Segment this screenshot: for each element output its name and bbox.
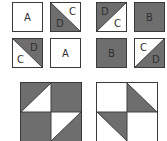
tile-a-bottom: A [50,38,81,68]
tile-cd-diagonal-1: C D [50,2,81,32]
tile-label-c: C [69,7,76,17]
quilt-block-right-shape [97,83,157,141]
quilt-block-right [96,82,158,141]
quilt-block-left-shape [21,83,81,141]
tile-cd-diagonal-2: C D [134,38,165,68]
tile-label-d: D [152,55,160,65]
tile-dc-diagonal-2: D C [12,38,43,68]
tile-label-b: B [108,49,115,59]
tile-a-top: A [12,2,43,32]
tile-b-top: B [134,2,165,32]
tile-label-b: B [146,13,153,23]
quilt-block-left [20,82,82,141]
tile-label-c: C [17,55,24,65]
tile-b-bottom: B [96,38,127,68]
tile-label-a: A [24,13,31,23]
tile-dc-diagonal-1: D C [96,2,127,32]
tile-label-d: D [56,19,64,29]
tile-label-c: C [114,19,121,29]
tile-label-d: D [101,7,109,17]
tile-label-d: D [30,43,38,53]
tile-label-a: A [62,49,69,59]
tile-label-c: C [140,43,147,53]
